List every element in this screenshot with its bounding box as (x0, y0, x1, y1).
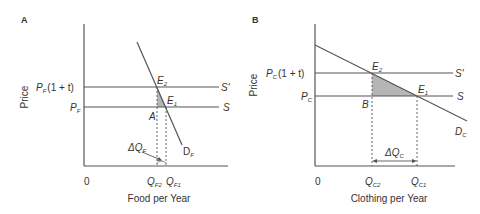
panel-b-supply-taxed-label: S' (455, 68, 465, 79)
panel-a-q2-label: QF2 (147, 176, 162, 188)
panel-b-origin-label: 0 (315, 176, 321, 187)
panel-b-q1-label: QC1 (411, 176, 426, 188)
panel-b-y-axis-label: Price (248, 73, 259, 96)
panel-a-point-e1: E1 (167, 95, 177, 107)
arrowhead-right-icon (412, 159, 417, 163)
panel-a-price-high-label: PF(1 + t) (36, 82, 74, 94)
panel-a-demand-line (137, 42, 182, 145)
panel-b-point-e1: E1 (418, 84, 428, 96)
panel-a-demand-label: DF (183, 146, 194, 158)
panel-b-supply-label: S (457, 91, 464, 102)
panel-a-delta-brace (157, 161, 166, 163)
panel-a-y-axis-label: Price (19, 85, 30, 108)
tax-incidence-diagram: A Price PF(1 + t) PF S' S E2 E1 A DF (0, 0, 480, 214)
panel-b-price-high-label: PC(1 + t) (266, 68, 304, 80)
panel-b-point-b: B (362, 99, 369, 110)
panel-a-origin-label: 0 (84, 176, 90, 187)
panel-a-label: A (21, 15, 28, 25)
panel-a: A Price PF(1 + t) PF S' S E2 E1 A DF (19, 15, 231, 204)
panel-b-demand-label: DC (455, 126, 467, 138)
panel-b-point-e2: E2 (372, 61, 383, 73)
panel-b-demand-line (315, 45, 467, 121)
panel-b: B Price PC(1 + t) PC S' S E2 E1 B DC (248, 15, 467, 204)
panel-a-price-low-label: PF (70, 102, 81, 114)
panel-b-price-low-label: PC (301, 91, 313, 103)
panel-a-supply-taxed-label: S' (221, 82, 231, 93)
panel-a-x-axis-label: Food per Year (128, 193, 191, 204)
panel-a-supply-label: S (223, 102, 230, 113)
panel-b-label: B (252, 15, 259, 25)
panel-a-q1-label: QF1 (166, 176, 181, 188)
panel-b-q2-label: QC2 (365, 176, 381, 188)
panel-b-delta-label: ΔQC (384, 147, 405, 159)
panel-a-delta-label: ΔQF (127, 142, 147, 154)
panel-b-x-axis-label: Clothing per Year (351, 193, 428, 204)
panel-a-point-a: A (148, 111, 156, 122)
panel-a-point-e2: E2 (157, 75, 168, 87)
arrowhead-left-icon (372, 159, 377, 163)
